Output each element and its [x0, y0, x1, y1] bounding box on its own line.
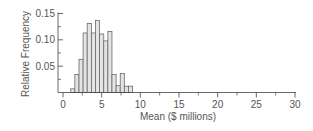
histogram-bar [100, 34, 104, 92]
histogram-bar [112, 75, 116, 93]
histogram-bar [108, 31, 112, 92]
y-axis-label: Relative Frequency [20, 11, 31, 97]
x-tick-label: 10 [135, 99, 147, 110]
x-tick-label: 30 [289, 99, 301, 110]
histogram-bar [104, 41, 108, 93]
histogram-bar [71, 89, 75, 93]
x-axis: 051015202530 [58, 93, 301, 110]
histogram-bar [79, 59, 83, 92]
x-tick-label: 0 [60, 99, 66, 110]
y-tick-label: 0.15 [36, 8, 56, 19]
x-tick-label: 15 [173, 99, 185, 110]
chart-canvas: 0.050.100.15 051015202530 Mean ($ millio… [0, 0, 313, 131]
histogram-bar [120, 74, 124, 93]
histogram-bar [124, 86, 128, 92]
y-axis: 0.050.100.15 [36, 8, 63, 93]
y-tick-label: 0.10 [36, 34, 56, 45]
x-tick-label: 25 [251, 99, 263, 110]
y-tick-label: 0.05 [36, 61, 56, 72]
histogram-bar [75, 75, 79, 93]
histogram-bar [116, 86, 120, 93]
histogram-bar [95, 20, 99, 92]
x-axis-label: Mean ($ millions) [140, 111, 216, 122]
histogram-chart: 0.050.100.15 051015202530 Mean ($ millio… [0, 0, 313, 131]
x-tick-label: 20 [212, 99, 224, 110]
histogram-bar [87, 24, 91, 93]
histogram-bar [83, 33, 87, 93]
histogram-bar [91, 33, 95, 93]
x-tick-label: 5 [99, 99, 105, 110]
histogram-bars [71, 20, 133, 92]
histogram-bar [129, 86, 133, 92]
